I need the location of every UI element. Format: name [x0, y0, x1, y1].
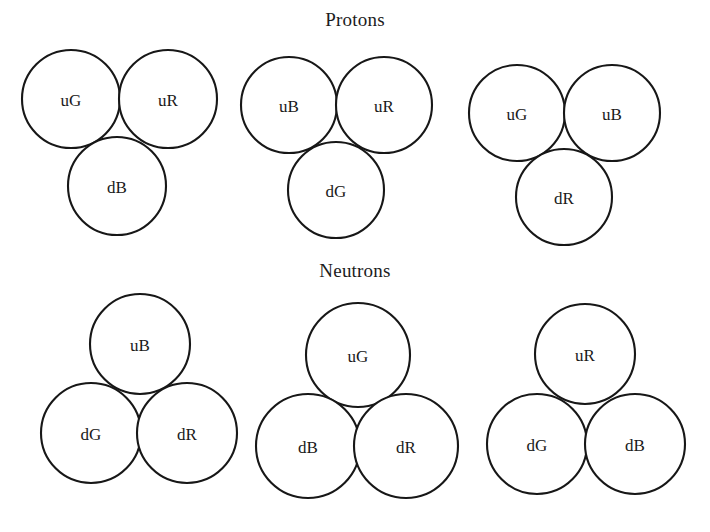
quark-label-dr: dR — [177, 425, 198, 444]
quark-label-db: dB — [625, 436, 645, 455]
quark-label-dg: dG — [81, 425, 102, 444]
hadron-group-proton-3: uGuBdR — [469, 65, 660, 245]
quark-composition-figure: Protons Neutrons uGuRdBuBuRdGuGuBdRuBdGd… — [0, 0, 710, 532]
quark-label-dr: dR — [396, 438, 417, 457]
quark-label-dr: dR — [554, 189, 575, 208]
quark-label-ur: uR — [575, 346, 596, 365]
hadron-group-proton-2: uBuRdG — [241, 57, 432, 238]
quark-label-db: dB — [107, 178, 127, 197]
hadron-group-neutron-3: uRdGdB — [487, 304, 685, 494]
quark-label-ub: uB — [602, 105, 622, 124]
quark-label-ug: uG — [348, 347, 369, 366]
quark-label-dg: dG — [527, 436, 548, 455]
hadron-group-neutron-2: uGdBdR — [256, 303, 458, 498]
hadron-group-proton-1: uGuRdB — [22, 50, 217, 235]
quark-label-ug: uG — [507, 105, 528, 124]
quark-label-ur: uR — [374, 97, 395, 116]
quark-label-db: dB — [298, 438, 318, 457]
quark-label-ur: uR — [158, 91, 179, 110]
quark-label-ub: uB — [279, 97, 299, 116]
quark-diagram-canvas: uGuRdBuBuRdGuGuBdRuBdGdRuGdBdRuRdGdB — [0, 0, 710, 532]
quark-label-dg: dG — [326, 182, 347, 201]
quark-label-ug: uG — [61, 91, 82, 110]
quark-label-ub: uB — [130, 336, 150, 355]
hadron-group-neutron-1: uBdGdR — [41, 294, 237, 483]
